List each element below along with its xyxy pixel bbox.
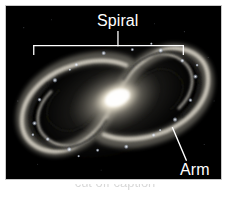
galaxy-image xyxy=(6,6,221,179)
galaxy-photo xyxy=(5,5,222,180)
caption-remnant: cut off caption xyxy=(10,184,220,198)
caption-remnant-text: cut off caption xyxy=(10,184,220,190)
figure-root: Spiral Arm cut off caption xyxy=(0,0,230,199)
